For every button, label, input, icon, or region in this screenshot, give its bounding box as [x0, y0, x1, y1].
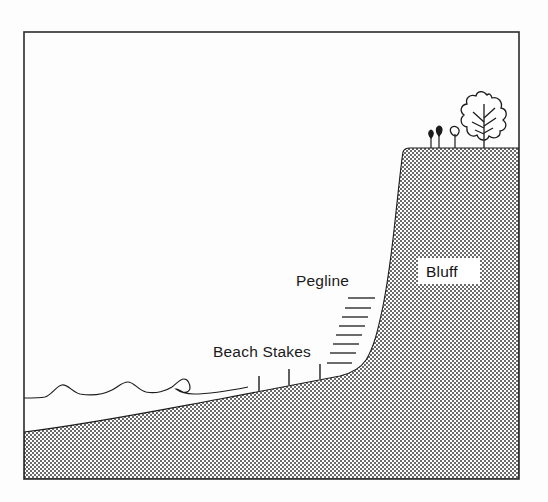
figure-root: Pegline Beach Stakes Bluff — [0, 0, 548, 502]
bluff-label: Bluff — [426, 263, 458, 280]
bluff-label-group: Bluff — [418, 258, 480, 284]
bluff-profile-diagram: Pegline Beach Stakes Bluff — [0, 0, 548, 502]
pegline-label: Pegline — [296, 272, 349, 289]
beach-stakes-label: Beach Stakes — [213, 343, 311, 360]
